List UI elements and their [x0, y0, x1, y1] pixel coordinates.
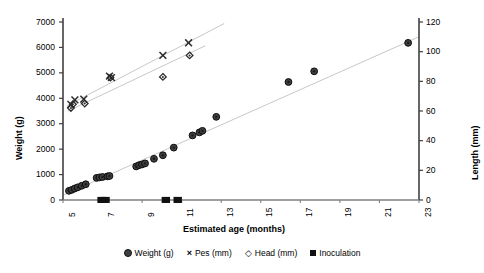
- y-axis-left-tick-label: 3000: [23, 118, 55, 128]
- square-marker: [310, 250, 316, 256]
- x-axis-tick-label: 21: [383, 208, 393, 217]
- data-point: [185, 39, 192, 46]
- diamond-marker: ◇: [245, 249, 252, 258]
- y-axis-right-tick-label: 100: [426, 46, 458, 56]
- data-point: [159, 52, 166, 59]
- x-axis-tick-label: 11: [185, 208, 195, 217]
- y-axis-left-tick-label: 0: [23, 195, 55, 205]
- x-axis-tick-label: 23: [423, 208, 433, 217]
- data-point: [213, 113, 220, 120]
- data-point: [106, 173, 113, 180]
- x-axis-tick-label: 17: [304, 208, 314, 217]
- chart-legend: Weight (g)×Pes (mm)◇Head (mm)Inoculation: [0, 248, 484, 258]
- cross-marker: ×: [187, 249, 192, 258]
- y-axis-right-title: Length (mm): [470, 126, 480, 181]
- x-axis-title: Estimated age (months): [183, 224, 285, 234]
- x-axis-tick-label: 13: [225, 208, 235, 217]
- y-axis-left-tick-label: 2000: [23, 144, 55, 154]
- y-axis-left-tick-label: 6000: [23, 42, 55, 52]
- y-axis-right-tick-label: 120: [426, 17, 458, 27]
- legend-label: Weight (g): [135, 248, 174, 258]
- x-axis-tick-label: 19: [343, 208, 353, 217]
- pes-trend: [67, 23, 224, 105]
- y-axis-right-tick-label: 60: [426, 106, 458, 116]
- data-point: [160, 74, 167, 81]
- legend-label: Pes (mm): [195, 248, 232, 258]
- y-axis-left-tick-label: 7000: [23, 17, 55, 27]
- legend-item[interactable]: Inoculation: [310, 248, 360, 258]
- y-axis-right-tick-label: 0: [426, 195, 458, 205]
- data-point: [151, 155, 158, 162]
- data-point: [285, 79, 292, 86]
- x-axis-tick-label: 9: [146, 212, 156, 217]
- data-point: [101, 197, 109, 203]
- legend-label: Head (mm): [255, 248, 298, 258]
- y-axis-right-tick-label: 80: [426, 76, 458, 86]
- x-axis-tick-label: 7: [106, 212, 116, 217]
- y-axis-right-tick-label: 40: [426, 135, 458, 145]
- weight-trend: [64, 37, 419, 195]
- data-point: [159, 152, 166, 159]
- x-axis-tick-label: 5: [67, 212, 77, 217]
- y-axis-left-tick-label: 4000: [23, 93, 55, 103]
- y-axis-left-tick-label: 5000: [23, 67, 55, 77]
- data-point: [162, 197, 170, 203]
- data-point: [174, 197, 182, 203]
- circle-marker: [124, 249, 132, 257]
- data-point: [405, 39, 412, 46]
- x-axis-tick-label: 15: [264, 208, 274, 217]
- data-point: [170, 144, 177, 151]
- data-point: [82, 181, 89, 188]
- data-point: [142, 160, 149, 167]
- head-trend: [68, 46, 205, 111]
- data-point: [311, 68, 318, 75]
- growth-scatter-chart: Weight (g) Length (mm) Estimated age (mo…: [0, 0, 484, 273]
- legend-item[interactable]: Weight (g): [124, 248, 174, 258]
- data-point: [199, 127, 206, 134]
- data-point: [189, 132, 196, 139]
- y-axis-right-tick-label: 20: [426, 165, 458, 175]
- y-axis-left-tick-label: 1000: [23, 169, 55, 179]
- legend-item[interactable]: ×Pes (mm): [187, 248, 232, 258]
- legend-label: Inoculation: [319, 248, 360, 258]
- legend-item[interactable]: ◇Head (mm): [245, 248, 298, 258]
